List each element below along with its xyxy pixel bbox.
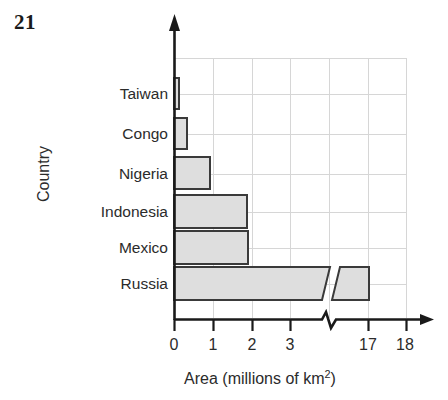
bar-congo xyxy=(174,118,187,149)
bar-nigeria xyxy=(174,157,210,189)
bars xyxy=(174,78,369,300)
bar-mexico xyxy=(174,231,248,264)
x-axis-arrow xyxy=(420,314,434,325)
bar-russia-right-segment xyxy=(332,267,369,300)
bar-chart-svg xyxy=(0,0,448,400)
x-axis-line-with-break xyxy=(174,312,424,328)
bar-indonesia xyxy=(174,195,247,228)
bar-russia-left-segment xyxy=(174,267,330,300)
y-axis-arrow xyxy=(169,14,180,31)
